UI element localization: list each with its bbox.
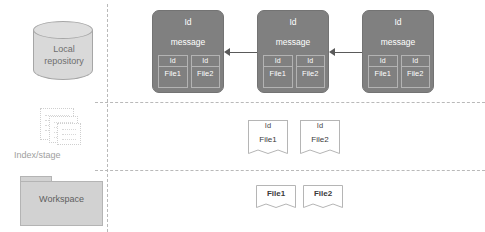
commit-2-message: message bbox=[258, 37, 328, 47]
commit-2-file-1-name: File1 bbox=[263, 66, 293, 88]
workspace-file-1-name: File1 bbox=[256, 185, 296, 208]
commit-2-files: Id File1 Id File2 bbox=[263, 55, 325, 88]
commit-node-2[interactable]: Id message Id File1 Id File2 bbox=[257, 10, 329, 93]
commit-2-file-2: Id File2 bbox=[296, 55, 326, 88]
commit-node-3[interactable]: Id message Id File1 Id File2 bbox=[362, 10, 434, 93]
workspace-file-2-name: File2 bbox=[303, 185, 343, 208]
index-stage-label: Index/stage bbox=[14, 150, 104, 160]
workspace-folder-icon: Workspace bbox=[20, 176, 103, 226]
staged-file-1-name: File1 bbox=[248, 131, 288, 154]
zone-divider-repository-stage bbox=[95, 102, 485, 103]
commit-1-file-1: Id File1 bbox=[158, 55, 188, 88]
commit-2-file-1-id: Id bbox=[263, 55, 293, 66]
staged-file-2-id: Id bbox=[300, 120, 340, 131]
commit-parent-arrow-head-3-to-2 bbox=[329, 48, 335, 56]
local-repository-label-line1: Local bbox=[33, 43, 95, 55]
staged-file-1[interactable]: Id File1 bbox=[248, 120, 288, 154]
commit-1-message: message bbox=[153, 37, 223, 47]
commit-1-file-2-id: Id bbox=[191, 55, 221, 66]
commit-parent-arrow-line-2-to-1 bbox=[229, 52, 257, 53]
commit-2-file-2-id: Id bbox=[296, 55, 326, 66]
commit-3-file-2-name: File2 bbox=[401, 66, 431, 88]
staged-file-1-id: Id bbox=[248, 120, 288, 131]
commit-3-files: Id File1 Id File2 bbox=[368, 55, 430, 88]
commit-1-id: Id bbox=[153, 17, 223, 27]
commit-parent-arrow-head-2-to-1 bbox=[224, 48, 230, 56]
cylinder-top-ellipse bbox=[33, 21, 93, 39]
commit-1-file-1-id: Id bbox=[158, 55, 188, 66]
commit-parent-arrow-line-3-to-2 bbox=[334, 52, 362, 53]
workspace-file-2[interactable]: File2 bbox=[303, 185, 343, 208]
diagram-canvas: Local repository Index/stage Workspace bbox=[0, 0, 485, 232]
commit-3-file-2: Id File2 bbox=[401, 55, 431, 88]
commit-1-file-1-name: File1 bbox=[158, 66, 188, 88]
commit-node-1[interactable]: Id message Id File1 Id File2 bbox=[152, 10, 224, 93]
commit-1-file-2-name: File2 bbox=[191, 66, 221, 88]
stage-sheet-front bbox=[57, 123, 81, 145]
local-repository-label: Local repository bbox=[33, 43, 95, 67]
staged-file-2[interactable]: Id File2 bbox=[300, 120, 340, 154]
commit-2-file-2-name: File2 bbox=[296, 66, 326, 88]
workspace-label: Workspace bbox=[20, 194, 103, 204]
staged-file-2-name: File2 bbox=[300, 131, 340, 154]
commit-3-file-1-name: File1 bbox=[368, 66, 398, 88]
commit-3-file-1: Id File1 bbox=[368, 55, 398, 88]
commit-2-file-1: Id File1 bbox=[263, 55, 293, 88]
workspace-file-1[interactable]: File1 bbox=[256, 185, 296, 208]
zone-divider-vertical bbox=[107, 4, 108, 232]
index-stage-icon bbox=[40, 108, 88, 150]
commit-3-file-1-id: Id bbox=[368, 55, 398, 66]
commit-1-files: Id File1 Id File2 bbox=[158, 55, 220, 88]
commit-1-file-2: Id File2 bbox=[191, 55, 221, 88]
commit-2-id: Id bbox=[258, 17, 328, 27]
zone-divider-stage-workspace bbox=[95, 170, 485, 171]
commit-3-message: message bbox=[363, 37, 433, 47]
commit-3-file-2-id: Id bbox=[401, 55, 431, 66]
local-repository-cylinder-icon: Local repository bbox=[33, 21, 95, 89]
commit-3-id: Id bbox=[363, 17, 433, 27]
local-repository-label-line2: repository bbox=[33, 55, 95, 67]
